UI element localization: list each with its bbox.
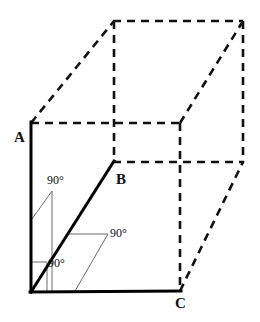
angle-label-ob-oc: 90° bbox=[110, 227, 127, 239]
vertex-label-b: B bbox=[116, 172, 126, 187]
edge-top-front-right-to-top-back-right bbox=[180, 21, 243, 123]
edge-O-to-B bbox=[31, 161, 114, 292]
dashed-edges-group bbox=[31, 21, 244, 291]
leader-angle-oa-ob-diagonal bbox=[32, 191, 52, 219]
edge-A-to-top-back-left bbox=[31, 21, 114, 123]
edge-O-to-C bbox=[30, 291, 181, 292]
box-diagram-canvas bbox=[0, 0, 260, 322]
angle-leader-lines-group bbox=[31, 191, 108, 292]
vertex-label-a: A bbox=[14, 130, 25, 145]
angle-label-oa-oc: 90° bbox=[48, 257, 65, 269]
leader-angle-ob-oc-diagonal bbox=[75, 234, 108, 291]
geometry-figure: A B C 90° 90° 90° bbox=[0, 0, 260, 322]
angle-label-oa-ob: 90° bbox=[47, 174, 64, 186]
edge-C-to-right-back-mid bbox=[180, 162, 243, 291]
vertex-label-c: C bbox=[175, 296, 186, 311]
